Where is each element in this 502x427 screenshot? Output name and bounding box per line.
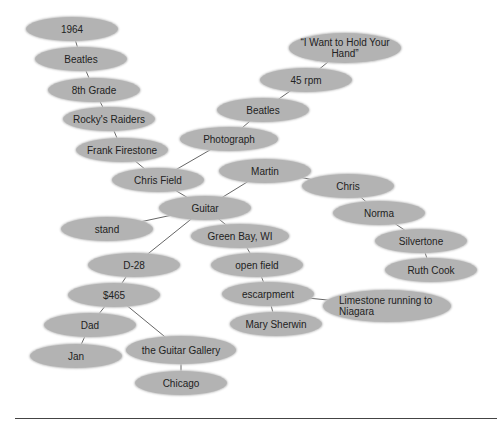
node-label: stand xyxy=(95,224,119,235)
cluster-diagram: 1964Beatles8th GradeRocky's RaidersFrank… xyxy=(0,0,502,427)
node-frank: Frank Firestone xyxy=(76,138,168,162)
node-label: Chris xyxy=(336,181,359,192)
node-norma: Norma xyxy=(333,201,425,225)
node-chris: Chris xyxy=(302,174,394,198)
node-label: Beatles xyxy=(246,105,279,116)
node-price: $465 xyxy=(68,283,160,307)
node-chrisfield: Chris Field xyxy=(112,168,204,192)
node-rpm: 45 rpm xyxy=(260,68,352,92)
node-label: Beatles xyxy=(64,54,97,65)
node-marysherwin: Mary Sherwin xyxy=(230,312,322,336)
node-label: the Guitar Gallery xyxy=(142,345,220,356)
node-beatles1: Beatles xyxy=(35,47,127,71)
bottom-divider xyxy=(15,418,497,419)
node-ruthcook: Ruth Cook xyxy=(385,258,477,282)
node-grade8: 8th Grade xyxy=(48,78,140,102)
node-guitargallery: the Guitar Gallery xyxy=(126,336,236,364)
node-d28: D-28 xyxy=(88,253,180,277)
node-label: Martin xyxy=(251,166,279,177)
node-label: D-28 xyxy=(123,260,145,271)
node-label: Dad xyxy=(81,320,99,331)
node-label: Frank Firestone xyxy=(87,145,157,156)
node-label: Guitar xyxy=(191,203,218,214)
node-label: Norma xyxy=(364,208,394,219)
node-label: 1964 xyxy=(61,24,83,35)
node-label: Ruth Cook xyxy=(407,265,454,276)
node-chicago: Chicago xyxy=(135,371,227,395)
node-rocky: Rocky's Raiders xyxy=(63,107,155,131)
node-label: Mary Sherwin xyxy=(245,319,306,330)
node-label: Green Bay, WI xyxy=(208,231,273,242)
node-martin: Martin xyxy=(219,159,311,183)
node-silvertone: Silvertone xyxy=(375,229,467,253)
node-label: Silvertone xyxy=(399,236,443,247)
node-label: “I Want to Hold Your Hand” xyxy=(300,37,390,59)
node-limestone: Limestone running to Niagara xyxy=(323,290,451,322)
node-label: open field xyxy=(235,260,278,271)
node-jan: Jan xyxy=(30,344,122,368)
node-photo: Photograph xyxy=(180,127,278,151)
node-label: 45 rpm xyxy=(290,75,321,86)
node-stand: stand xyxy=(61,217,153,241)
node-label: Chicago xyxy=(163,378,200,389)
node-wanthand: “I Want to Hold Your Hand” xyxy=(289,33,401,63)
node-label: Jan xyxy=(68,351,84,362)
node-beatles2: Beatles xyxy=(217,98,309,122)
node-label: Chris Field xyxy=(134,175,182,186)
node-openfield: open field xyxy=(211,253,303,277)
node-greenbay: Green Bay, WI xyxy=(191,224,289,248)
node-dad: Dad xyxy=(44,313,136,337)
node-label: 8th Grade xyxy=(72,85,116,96)
node-label: escarpment xyxy=(242,289,294,300)
node-guitar: Guitar xyxy=(159,196,251,220)
node-label: Rocky's Raiders xyxy=(73,114,145,125)
node-label: Photograph xyxy=(203,134,255,145)
node-n1964: 1964 xyxy=(26,17,118,41)
node-label: $465 xyxy=(103,290,125,301)
node-escarpment: escarpment xyxy=(222,282,314,306)
node-label: Limestone running to Niagara xyxy=(339,295,439,317)
